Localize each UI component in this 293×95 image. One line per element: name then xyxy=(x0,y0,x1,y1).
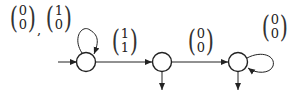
label-transition-q0-q1: ( 1 1 ) xyxy=(110,26,140,56)
vector-bottom: 0 xyxy=(197,41,205,55)
vector-bottom: 1 xyxy=(121,41,129,55)
label-separator: , xyxy=(37,22,41,37)
self-loop-q2 xyxy=(247,54,273,72)
state-q2 xyxy=(229,53,248,72)
vector-top: 0 xyxy=(271,13,279,27)
vector-bottom: 0 xyxy=(55,18,63,32)
self-loop-q0 xyxy=(78,29,97,54)
vector-top: 1 xyxy=(55,4,63,18)
vector-bottom: 0 xyxy=(19,18,27,32)
label-q0-loop-vector-2: ( 1 0 ) xyxy=(44,3,74,33)
vector-bottom: 0 xyxy=(271,27,279,41)
state-q1 xyxy=(153,53,172,72)
label-q2-loop: ( 0 0 ) xyxy=(260,12,290,42)
vector-top: 0 xyxy=(19,4,27,18)
label-q0-loop-vector-1: ( 0 0 ) xyxy=(8,3,38,33)
vector-top: 1 xyxy=(121,27,129,41)
state-q0 xyxy=(77,53,96,72)
label-transition-q1-q2: ( 0 0 ) xyxy=(186,26,216,56)
vector-top: 0 xyxy=(197,27,205,41)
